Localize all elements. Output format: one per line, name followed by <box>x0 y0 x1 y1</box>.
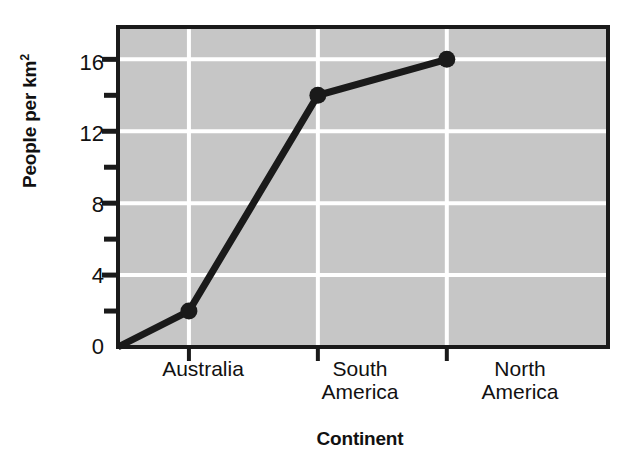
x-tick-label-australia: Australia <box>123 358 283 381</box>
plot-background <box>118 27 608 347</box>
x-tick-label-south-america-line1: South <box>280 358 440 381</box>
y-tick-label-0: 0 <box>58 336 104 358</box>
y-axis-title: People per km2 <box>19 21 41 221</box>
y-tick-label-16: 16 <box>58 52 104 74</box>
y-tick-label-8: 8 <box>58 194 104 216</box>
y-axis-tick-label-group: 16 12 8 4 0 <box>58 0 104 468</box>
y-axis-ticks <box>102 59 118 311</box>
y-axis-title-superscript: 2 <box>18 54 32 61</box>
x-tick-label-australia-line1: Australia <box>123 358 283 381</box>
x-tick-label-south-america-line2: America <box>280 381 440 404</box>
x-tick-label-south-america: South America <box>280 358 440 403</box>
y-axis-title-text: People per km <box>19 61 40 188</box>
y-tick-label-4: 4 <box>58 265 104 287</box>
x-tick-label-north-america-line1: North <box>440 358 600 381</box>
y-tick-label-12: 12 <box>58 123 104 145</box>
chart-container: 16 12 8 4 0 People per km2 Australia Sou… <box>0 0 642 468</box>
x-tick-label-north-america-line2: America <box>440 381 600 404</box>
x-axis-title: Continent <box>260 428 460 450</box>
x-tick-label-north-america: North America <box>440 358 600 403</box>
